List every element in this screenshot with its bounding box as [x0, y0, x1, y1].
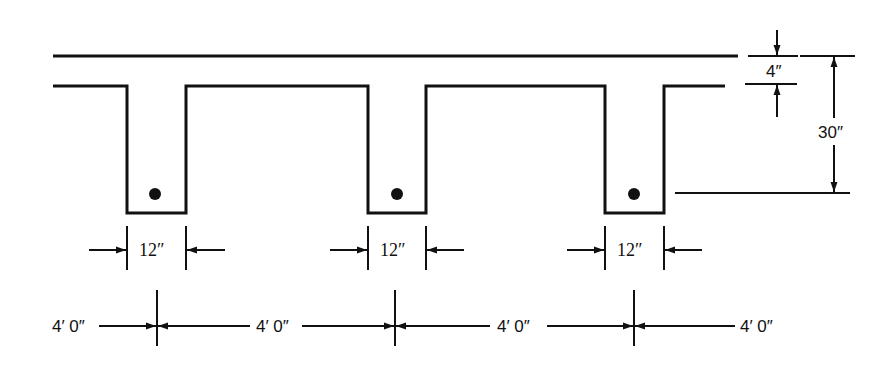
stem-width-label-2: 12″ [380, 241, 406, 259]
rebar-dot-2 [391, 188, 403, 200]
slab-thickness-label: 4″ [766, 63, 781, 80]
drawing-lines [0, 0, 896, 367]
spacing-label-4: 4′ 0″ [740, 318, 773, 335]
spacing-label-2: 4′ 0″ [256, 318, 289, 335]
spacing-label-1: 4′ 0″ [52, 318, 85, 335]
t-beam-diagram: 4″ 30″ 12″ 12″ 12″ 4′ 0″ 4′ 0″ 4′ 0″ 4′ … [0, 0, 896, 367]
total-depth-label: 30″ [818, 124, 843, 141]
stem-width-label-3: 12″ [617, 241, 643, 259]
rebar-dot-3 [628, 188, 640, 200]
stem-width-label-1: 12″ [139, 241, 165, 259]
spacing-label-3: 4′ 0″ [497, 318, 530, 335]
rebar-dot-1 [149, 188, 161, 200]
spacing-dimension-line [99, 290, 735, 346]
